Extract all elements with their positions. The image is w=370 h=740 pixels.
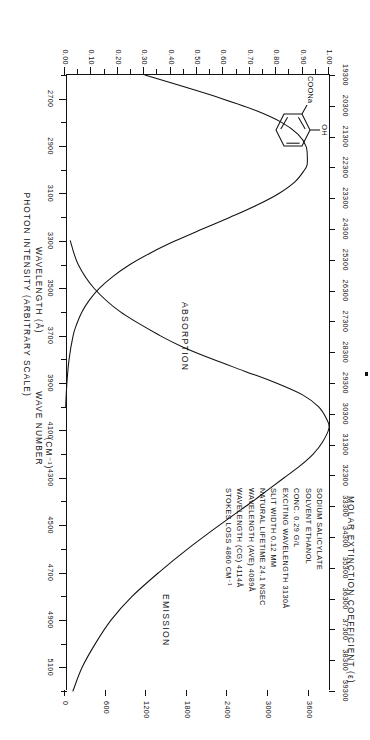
wavelength-tick (61, 170, 67, 171)
wavenumber-tick (329, 198, 335, 199)
extinction-tick (267, 690, 268, 696)
wavenumber-tick-label: 22300 (341, 156, 350, 178)
wavenumber-tick-label: 27300 (341, 310, 350, 332)
wavelength-tick (59, 383, 67, 384)
wavenumber-tick-label: 28300 (341, 341, 350, 363)
wavenumber-tick-label: 34300 (341, 526, 350, 548)
wavenumber-tick-label: 29300 (341, 372, 350, 394)
intensity-tick (104, 69, 105, 75)
annotation-line: WAVELENGTH (AVE) 4089Å (245, 488, 256, 609)
wavelength-tick-label: 4500 (46, 516, 55, 534)
extinction-tick (226, 690, 227, 696)
wavenumber-tick-label: 20300 (341, 95, 350, 117)
wavenumber-tick-label: 37300 (341, 618, 350, 640)
annotation-line: WAVELENGTH (CG) 4114Å (234, 488, 245, 609)
intensity-axis-title: PHOTON INTENSITY (ARBITRARY SCALE) (22, 192, 32, 396)
intensity-tick (130, 69, 131, 75)
wavelength-tick-label: 4900 (46, 611, 55, 629)
annotation-line: NATURAL LIFETIME 24.1 NSEC (257, 488, 268, 609)
wavenumber-tick-label: 25300 (341, 249, 350, 271)
intensity-tick (196, 67, 197, 75)
wavelength-tick (61, 217, 67, 218)
intensity-tick (143, 67, 144, 75)
wavelength-tick (61, 359, 67, 360)
wavelength-tick (59, 667, 67, 668)
intensity-tick (77, 69, 78, 75)
wavenumber-tick-label: 24300 (341, 218, 350, 240)
wavenumber-tick-label: 30300 (341, 403, 350, 425)
intensity-tick (262, 69, 263, 75)
intensity-tick (117, 67, 118, 75)
intensity-tick (315, 69, 316, 75)
extinction-tick (105, 690, 106, 696)
intensity-tick (302, 67, 303, 75)
wavelength-tick-label: 3900 (46, 374, 55, 392)
wavelength-tick-label: 4700 (46, 564, 55, 582)
extinction-tick-label: 1800 (182, 701, 191, 719)
sodium-salicylate-structure: OH COONa (264, 90, 328, 176)
extinction-tick-label: 600 (101, 701, 110, 714)
wavelength-tick (61, 596, 67, 597)
wavenumber-tick-label: 38300 (341, 649, 350, 671)
wavelength-tick-label: 5100 (46, 659, 55, 677)
extinction-tick (186, 690, 187, 696)
extinction-tick-label: 2400 (223, 701, 232, 719)
wavelength-tick (61, 122, 67, 123)
wavelength-tick-label: 4100 (46, 422, 55, 440)
annotation-line: CONC. 0.29 G/L (291, 488, 302, 609)
intensity-tick-label: 0.20 (113, 41, 122, 65)
wavelength-tick-label: 3100 (46, 185, 55, 203)
wavenumber-tick-label: 39300 (341, 680, 350, 702)
intensity-tick (288, 69, 289, 75)
extinction-tick (308, 690, 309, 696)
absorption-label: ABSORPTION (180, 302, 190, 371)
wavelength-tick (59, 620, 67, 621)
annotation-line: SODIUM SALICYLATE (314, 488, 325, 609)
wavenumber-tick (329, 75, 335, 76)
intensity-tick-label: 0.10 (87, 41, 96, 65)
intensity-tick-label: 0.70 (245, 41, 254, 65)
intensity-tick (249, 67, 250, 75)
wavenumber-tick (329, 167, 335, 168)
wavelength-tick (61, 501, 67, 502)
wavenumber-tick (329, 352, 335, 353)
emission-curve (70, 241, 329, 691)
wavenumber-tick (329, 629, 335, 630)
intensity-tick (222, 67, 223, 75)
wavenumber-tick-label: 35300 (341, 557, 350, 579)
wavenumber-tick-label: 19300 (341, 64, 350, 86)
wavelength-tick (59, 193, 67, 194)
wavelength-tick (61, 549, 67, 550)
wavelength-tick (59, 336, 67, 337)
intensity-tick (90, 67, 91, 75)
wavenumber-tick (329, 414, 335, 415)
intensity-tick (170, 67, 171, 75)
annotation-block: SODIUM SALICYLATESOLVENT ETHANOLCONC. 0.… (222, 488, 325, 609)
wavelength-tick (61, 312, 67, 313)
wavenumber-tick (329, 106, 335, 107)
intensity-tick (209, 69, 210, 75)
wavelength-tick-label: 3700 (46, 327, 55, 345)
wavelength-tick (59, 525, 67, 526)
wavenumber-tick (329, 137, 335, 138)
wavelength-tick (59, 99, 67, 100)
wavenumber-tick (329, 660, 335, 661)
intensity-tick-label: 0.50 (193, 41, 202, 65)
wavelength-tick (59, 478, 67, 479)
axes-frame: ABSORPTION EMISSION SODIUM SALICYLATESOL… (66, 74, 330, 690)
intensity-tick-label: 0.90 (298, 41, 307, 65)
annotation-line: SLIT WIDTH 0.12 MM (268, 488, 279, 609)
wavelength-tick (59, 430, 67, 431)
wavenumber-tick-label: 31300 (341, 434, 350, 456)
page-registration-mark (365, 372, 368, 376)
structure-coona-label: COONa (306, 76, 315, 104)
wavelength-tick-label: 2700 (46, 90, 55, 108)
wavenumber-tick (329, 260, 335, 261)
wavenumber-axis-title: WAVE NUMBER (34, 391, 44, 465)
extinction-tick (64, 690, 65, 696)
wavelength-tick (61, 454, 67, 455)
annotation-line: STOKES LOSS 4860 CM⁻¹ (222, 488, 233, 609)
wavelength-tick-label: 3300 (46, 232, 55, 250)
wavelength-tick (59, 573, 67, 574)
extinction-tick-label: 0 (61, 701, 70, 705)
